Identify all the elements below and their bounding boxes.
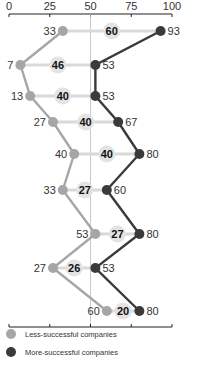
legend-item-less-successful: Less-successful companies [6,329,117,339]
less-successful-point [58,185,68,195]
tick-label-100: 100 [163,0,181,12]
less-successful-value: 60 [88,305,100,317]
gap-value: 40 [79,116,91,128]
gap-value: 20 [117,305,129,317]
gap-value: 27 [111,228,123,240]
legend-item-more-successful: More-successful companies [6,347,118,357]
gap-value: 27 [79,184,91,196]
more-successful-point [134,149,144,159]
tick-label-50: 50 [84,0,96,12]
less-successful-point [48,263,58,273]
legend-label-less-successful: Less-successful companies [25,330,117,339]
more-successful-value: 53 [102,59,114,71]
gap-value: 40 [101,148,113,160]
more-successful-point [90,263,100,273]
less-successful-point [102,306,112,316]
more-successful-value: 60 [114,184,126,196]
gap-value: 40 [57,90,69,102]
more-successful-point [90,60,100,70]
more-successful-value: 80 [146,305,158,317]
more-successful-point [156,26,166,36]
less-successful-value: 33 [44,184,56,196]
less-successful-value: 27 [34,116,46,128]
legend-dot-less-successful-icon [6,329,16,339]
less-successful-value: 53 [76,228,88,240]
less-successful-value: 13 [11,90,23,102]
more-successful-point [134,229,144,239]
less-successful-point [15,60,25,70]
gap-value: 46 [52,59,64,71]
top-x-axis: 0255075100 [6,0,181,17]
tick-label-75: 75 [125,0,137,12]
less-successful-value: 27 [34,262,46,274]
more-successful-point [102,185,112,195]
more-successful-value: 53 [102,90,114,102]
gap-value: 26 [68,262,80,274]
less-successful-point [69,149,79,159]
less-successful-value: 40 [55,148,67,160]
more-successful-point [134,306,144,316]
more-successful-value: 67 [125,116,137,128]
legend-label-more-successful: More-successful companies [25,348,118,357]
dumbbell-chart: 0255075100 60339346753401353402767404080… [0,0,199,345]
less-successful-point [25,91,35,101]
legend-dot-more-successful-icon [6,347,16,357]
more-successful-value: 80 [146,148,158,160]
less-successful-value: 33 [44,25,56,37]
chart-rows: 6033934675340135340276740408027336027538… [7,23,180,320]
tick-label-25: 25 [44,0,56,12]
less-successful-point [48,117,58,127]
more-successful-point [113,117,123,127]
more-successful-value: 53 [102,262,114,274]
less-successful-point [58,26,68,36]
tick-label-0: 0 [6,0,12,12]
less-successful-point [90,229,100,239]
less-successful-value: 7 [7,59,13,71]
more-successful-value: 93 [168,25,180,37]
more-successful-point [90,91,100,101]
gap-value: 60 [106,25,118,37]
more-successful-value: 80 [146,228,158,240]
bottom-x-axis [9,324,172,327]
